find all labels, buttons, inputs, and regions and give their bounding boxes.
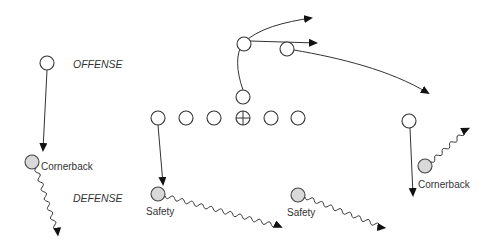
player-right-receiver bbox=[402, 114, 416, 128]
player-left-end bbox=[151, 111, 165, 125]
route-left-safety bbox=[165, 196, 281, 227]
player-quarterback bbox=[237, 37, 251, 51]
player-left-safety bbox=[151, 187, 165, 201]
player-left-guard bbox=[207, 111, 221, 125]
route-slot-receiver bbox=[294, 50, 428, 93]
route-running-back bbox=[238, 18, 311, 90]
label-right-safety: Safety bbox=[287, 207, 315, 218]
route-right-safety bbox=[305, 197, 384, 228]
defense-label: DEFENSE bbox=[73, 192, 124, 204]
player-right-tackle bbox=[291, 111, 305, 125]
label-left-cornerback: Cornerback bbox=[41, 161, 94, 172]
route-right-receiver bbox=[410, 128, 413, 195]
play-diagram: OFFENSE DEFENSE Cornerback Safety Safety… bbox=[0, 0, 496, 249]
player-running-back bbox=[236, 90, 250, 104]
route-left-end bbox=[158, 125, 163, 184]
player-center bbox=[236, 111, 250, 125]
route-left-receiver bbox=[43, 70, 47, 150]
offense-label: OFFENSE bbox=[73, 58, 124, 70]
route-left-cornerback bbox=[35, 168, 58, 235]
player-right-cornerback bbox=[418, 159, 432, 173]
player-left-cornerback bbox=[25, 155, 39, 169]
player-left-receiver bbox=[40, 56, 54, 70]
route-right-cornerback bbox=[431, 129, 468, 163]
player-left-tackle bbox=[179, 111, 193, 125]
player-right-safety bbox=[291, 188, 305, 202]
label-right-cornerback: Cornerback bbox=[418, 179, 471, 190]
player-slot-receiver bbox=[280, 42, 294, 56]
label-left-safety: Safety bbox=[146, 206, 174, 217]
player-right-guard bbox=[264, 111, 278, 125]
